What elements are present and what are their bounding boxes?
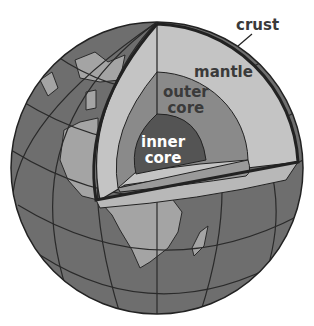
label-outer-core-line2: core [163, 100, 209, 116]
crust-leader-line [238, 34, 252, 46]
label-crust: crust [236, 17, 279, 33]
label-inner-core: inner core [141, 134, 185, 166]
label-outer-core: outer core [163, 84, 209, 116]
label-mantle: mantle [194, 64, 253, 80]
label-outer-core-line1: outer [163, 84, 209, 100]
label-inner-core-line1: inner [141, 134, 185, 150]
label-inner-core-line2: core [141, 150, 185, 166]
